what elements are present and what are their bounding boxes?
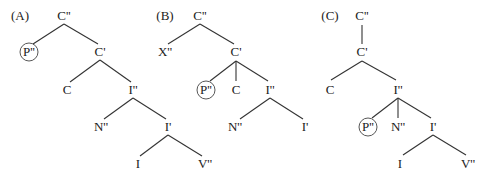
- tree-node: C': [94, 44, 105, 59]
- tree-c: (C)C''C'CI''P''N''I'IV'': [321, 8, 475, 171]
- tree-branch: [140, 135, 168, 156]
- tree-b: (B)C''X''C'P''CI''N''I': [156, 8, 308, 134]
- tree-node: C: [326, 82, 335, 97]
- tree-branch: [331, 61, 362, 80]
- tree-branch: [372, 98, 398, 118]
- tree-label: (B): [156, 8, 173, 23]
- tree-branch: [168, 24, 200, 44]
- tree-branch: [240, 98, 270, 119]
- tree-node: V'': [461, 156, 475, 171]
- tree-a: (A)C''P''C'CI''N''I'IV'': [11, 8, 212, 171]
- tree-node: C'': [57, 8, 70, 23]
- tree-node: C: [63, 82, 72, 97]
- tree-node: C': [230, 44, 241, 59]
- tree-node: C'': [193, 8, 206, 23]
- tree-branch: [200, 24, 234, 44]
- tree-node: N'': [94, 119, 108, 134]
- tree-node: I: [398, 156, 402, 171]
- tree-branch: [33, 24, 64, 44]
- tree-branch: [362, 61, 396, 80]
- tree-node: C'': [355, 8, 368, 23]
- syntax-tree-diagram: (A)C''P''C'CI''N''I'IV''(B)C''X''C'P''CI…: [0, 0, 495, 179]
- tree-node: V'': [198, 156, 212, 171]
- tree-node: C: [232, 82, 241, 97]
- tree-branch: [236, 61, 268, 81]
- tree-branch: [70, 60, 100, 82]
- tree-branch: [398, 98, 431, 118]
- tree-node: X'': [158, 44, 172, 59]
- tree-branch: [104, 98, 133, 119]
- tree-node: I': [302, 119, 309, 134]
- tree-node: N'': [391, 119, 405, 134]
- tree-node: I: [136, 156, 140, 171]
- tree-branch: [433, 135, 466, 155]
- tree-branch: [64, 24, 98, 44]
- tree-node: I': [430, 119, 437, 134]
- tree-label: (C): [321, 8, 338, 23]
- tree-label: (A): [11, 8, 29, 23]
- tree-node: P'': [362, 119, 374, 134]
- tree-branch: [168, 135, 202, 156]
- tree-branch: [210, 61, 236, 81]
- tree-branch: [133, 98, 166, 119]
- tree-node: P'': [200, 82, 212, 97]
- tree-node: I'': [393, 82, 402, 97]
- tree-node: I': [165, 119, 172, 134]
- tree-node: I'': [128, 82, 137, 97]
- tree-branch: [100, 60, 131, 82]
- tree-branch: [270, 98, 303, 119]
- tree-branch: [403, 135, 433, 155]
- tree-node: I'': [265, 82, 274, 97]
- tree-node: N'': [228, 119, 242, 134]
- tree-node: P'': [23, 44, 35, 59]
- tree-node: C': [356, 44, 367, 59]
- tree-canvas: (A)C''P''C'CI''N''I'IV''(B)C''X''C'P''CI…: [0, 0, 495, 179]
